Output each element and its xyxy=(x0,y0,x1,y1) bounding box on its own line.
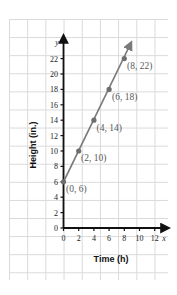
x-tick-label-10: 10 xyxy=(136,234,144,243)
point-label-6-18: (6, 18) xyxy=(112,92,137,103)
y-tick-label-0: 0 xyxy=(54,224,58,233)
x-axis-tick-labels: 0 2 4 6 8 10 12 xyxy=(62,234,159,243)
y-tick-label-2: 2 xyxy=(54,209,58,218)
x-tick-label-2: 2 xyxy=(77,234,81,243)
y-tick-label-14: 14 xyxy=(50,116,58,125)
data-point-labels: (0, 6) (2, 10) (4, 14) (6, 18) (8, 22) xyxy=(66,61,152,196)
y-tick-label-20: 20 xyxy=(50,70,58,79)
y-tick-label-10: 10 xyxy=(50,147,58,156)
y-tick-label-6: 6 xyxy=(54,178,58,187)
y-tick-label-4: 4 xyxy=(54,193,58,202)
point-label-8-22: (8, 22) xyxy=(127,61,152,72)
chart-figure: 0 2 4 6 8 10 12 14 16 18 20 22 0 2 xyxy=(0,0,177,295)
point-label-0-6: (0, 6) xyxy=(66,184,87,195)
y-axis-title: Height (in.) xyxy=(28,122,38,169)
x-axis-title: Time (h) xyxy=(94,254,129,264)
y-tick-label-18: 18 xyxy=(50,85,58,94)
point-label-2-10: (2, 10) xyxy=(81,153,106,164)
data-point-6-18 xyxy=(107,87,112,92)
point-label-4-14: (4, 14) xyxy=(97,123,122,134)
x-tick-label-6: 6 xyxy=(107,234,111,243)
x-tick-label-4: 4 xyxy=(92,234,96,243)
x-tick-label-0: 0 xyxy=(62,234,66,243)
y-tick-label-22: 22 xyxy=(50,55,58,64)
y-axis-tick-labels: 0 2 4 6 8 10 12 14 16 18 20 22 xyxy=(50,55,58,233)
x-tick-label-8: 8 xyxy=(122,234,126,243)
y-axis-variable-label: y xyxy=(54,38,59,47)
y-tick-label-16: 16 xyxy=(50,101,58,110)
y-tick-label-12: 12 xyxy=(50,132,58,141)
x-axis-variable-label: x xyxy=(161,234,166,243)
y-tick-label-8: 8 xyxy=(54,162,58,171)
chart-plot-area: 0 2 4 6 8 10 12 14 16 18 20 22 0 2 xyxy=(0,0,177,295)
x-tick-label-12: 12 xyxy=(151,234,159,243)
